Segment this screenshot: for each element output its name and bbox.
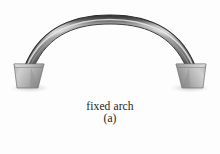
figure-caption: fixed arch (a) [0, 100, 220, 125]
right-abutment-cap [176, 64, 206, 68]
caption-subtitle: (a) [0, 112, 220, 124]
fixed-arch-diagram [0, 0, 220, 154]
caption-title: fixed arch [0, 100, 220, 112]
figure-container: fixed arch (a) [0, 0, 220, 154]
left-abutment-cap [14, 64, 44, 68]
